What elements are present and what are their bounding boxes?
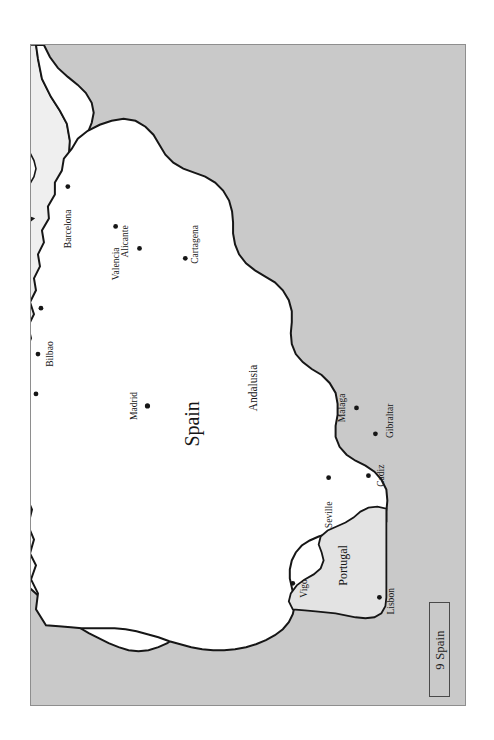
- label-spain: Spain: [181, 401, 204, 446]
- page-canvas: France Spain Andalusia Portugal Balearic…: [0, 0, 494, 740]
- city-dot-santander: [34, 392, 39, 397]
- label-vigo: Vigo: [298, 579, 309, 598]
- label-gibraltar: Gibraltar: [384, 403, 395, 438]
- label-valencia: Valencia: [110, 247, 121, 281]
- city-dot-valencia: [113, 224, 118, 229]
- figure-caption-text: 9 Spain: [432, 630, 447, 669]
- city-dot-lisbon: [377, 595, 382, 600]
- city-dot-cartagena: [183, 256, 188, 261]
- city-dot-bilbao: [36, 352, 41, 357]
- city-dot-gibraltar: [373, 431, 378, 436]
- label-bilbao: Bilbao: [44, 341, 55, 367]
- label-portugal: Portugal: [336, 544, 350, 585]
- city-dot-alicante: [137, 246, 142, 251]
- spain-map-svg: France Spain Andalusia Portugal Balearic…: [31, 45, 465, 705]
- city-dot-madrid: [145, 403, 150, 408]
- city-dot-barcelona: [65, 184, 70, 189]
- label-lisbon: Lisbon: [385, 588, 396, 615]
- city-dot-san-sebastian: [39, 306, 44, 311]
- map-plate: France Spain Andalusia Portugal Balearic…: [30, 44, 466, 706]
- city-dot-malaga: [354, 406, 359, 411]
- city-dot-cadiz: [366, 473, 371, 478]
- city-dot-seville: [326, 475, 331, 480]
- figure-caption-box: 9 Spain: [429, 602, 450, 697]
- label-seville: Seville: [323, 502, 334, 529]
- city-dot-vigo: [290, 581, 295, 586]
- label-andalusia: Andalusia: [247, 365, 259, 411]
- label-barcelona: Barcelona: [62, 209, 73, 248]
- label-madrid: Madrid: [128, 392, 139, 420]
- label-cadiz: Cadiz: [375, 465, 386, 487]
- label-malaga: Malaga: [336, 393, 347, 422]
- label-san-sebastian: San Sebastián: [31, 281, 32, 335]
- label-cartagena: Cartagena: [189, 224, 200, 263]
